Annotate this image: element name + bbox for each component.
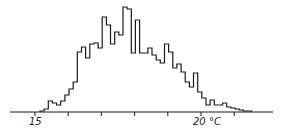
histogram-step-line: [40, 7, 252, 112]
tick-label-20: 20 °C: [193, 116, 221, 127]
histogram-chart: [0, 0, 283, 134]
tick-label-15: 15: [29, 116, 42, 127]
